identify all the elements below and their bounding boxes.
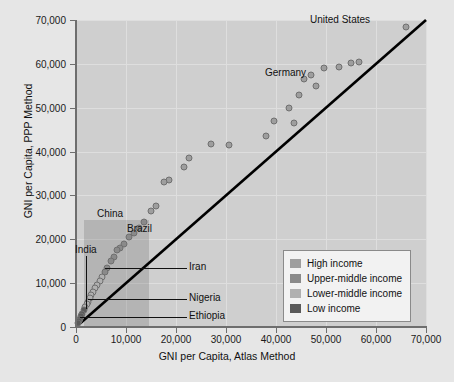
x-tick-mark	[376, 328, 377, 333]
y-tick-mark	[70, 108, 75, 109]
legend-swatch-lower-middle-income	[290, 289, 301, 298]
x-tick-label: 10,000	[111, 334, 142, 345]
y-tick-label: 40,000	[35, 146, 66, 157]
y-tick-label: 50,000	[35, 102, 66, 113]
x-tick-label: 30,000	[211, 334, 242, 345]
annotation-united-states: United States	[310, 14, 370, 25]
x-tick-mark	[226, 328, 227, 333]
annotation-germany: Germany	[265, 67, 306, 78]
y-tick-label: 20,000	[35, 234, 66, 245]
y-tick-label: 30,000	[35, 190, 66, 201]
data-point	[263, 133, 270, 140]
data-point	[185, 155, 192, 162]
y-tick-mark	[70, 239, 75, 240]
x-tick-mark	[276, 328, 277, 333]
y-tick-mark	[70, 20, 75, 21]
x-tick-label: 50,000	[311, 334, 342, 345]
annotation-ethiopia: Ethiopia	[189, 310, 225, 321]
annotation-nigeria: Nigeria	[189, 292, 221, 303]
legend-label-high-income: High income	[307, 258, 363, 269]
legend-label-lower-middle-income: Lower-middle income	[307, 288, 402, 299]
y-tick-mark	[70, 64, 75, 65]
legend-item-high-income[interactable]: High income	[290, 256, 402, 271]
annotation-brazil: Brazil	[127, 223, 152, 234]
data-point	[208, 140, 215, 147]
x-tick-mark	[176, 328, 177, 333]
legend-swatch-high-income	[290, 259, 301, 268]
y-tick-mark	[70, 195, 75, 196]
gridline-vertical	[426, 20, 427, 327]
data-point	[290, 120, 297, 127]
data-point	[335, 63, 342, 70]
y-tick-mark	[70, 283, 75, 284]
x-tick-label: 20,000	[161, 334, 192, 345]
leader-line-nigeria	[88, 299, 187, 300]
data-point	[308, 71, 315, 78]
y-tick-label: 10,000	[35, 278, 66, 289]
x-tick-mark	[76, 328, 77, 333]
legend[interactable]: High income Upper-middle income Lower-mi…	[283, 250, 411, 322]
legend-item-low-income[interactable]: Low income	[290, 301, 402, 316]
x-tick-label: 70,000	[411, 334, 442, 345]
x-tick-label: 60,000	[361, 334, 392, 345]
y-axis-title: GNI per Capita, PPP Method	[22, 61, 34, 241]
x-tick-label: 0	[73, 334, 79, 345]
x-tick-mark	[126, 328, 127, 333]
annotation-china: China	[97, 208, 123, 219]
y-tick-mark	[70, 327, 75, 328]
legend-label-low-income: Low income	[307, 303, 360, 314]
leader-line-ethiopia	[80, 317, 187, 318]
data-point	[320, 65, 327, 72]
data-point	[355, 58, 362, 65]
annotation-iran: Iran	[189, 261, 206, 272]
leader-line-india	[86, 256, 87, 309]
x-axis-title: GNI per Capita, Atlas Method	[0, 350, 454, 362]
data-point	[180, 163, 187, 170]
y-tick-label: 60,000	[35, 58, 66, 69]
data-point	[270, 117, 277, 124]
legend-item-upper-middle-income[interactable]: Upper-middle income	[290, 271, 402, 286]
x-axis-line	[75, 326, 427, 328]
data-point	[348, 59, 355, 66]
data-point	[225, 141, 232, 148]
data-point	[313, 82, 320, 89]
data-point	[403, 23, 410, 30]
scatter-chart-figure: 010,00020,00030,00040,00050,00060,00070,…	[0, 0, 454, 382]
annotation-india: India	[75, 244, 97, 255]
data-point	[160, 179, 167, 186]
x-tick-mark	[426, 328, 427, 333]
y-axis-line	[75, 20, 77, 328]
x-tick-label: 40,000	[261, 334, 292, 345]
y-tick-label: 70,000	[35, 15, 66, 26]
data-point	[148, 207, 155, 214]
data-point	[125, 234, 132, 241]
y-tick-label: 0	[60, 322, 66, 333]
leader-line-iran	[105, 268, 187, 269]
data-point	[108, 258, 115, 265]
legend-item-lower-middle-income[interactable]: Lower-middle income	[290, 286, 402, 301]
data-point	[295, 91, 302, 98]
y-tick-mark	[70, 152, 75, 153]
legend-label-upper-middle-income: Upper-middle income	[307, 273, 402, 284]
legend-swatch-upper-middle-income	[290, 274, 301, 283]
legend-swatch-low-income	[290, 304, 301, 313]
data-point	[285, 104, 292, 111]
x-tick-mark	[326, 328, 327, 333]
